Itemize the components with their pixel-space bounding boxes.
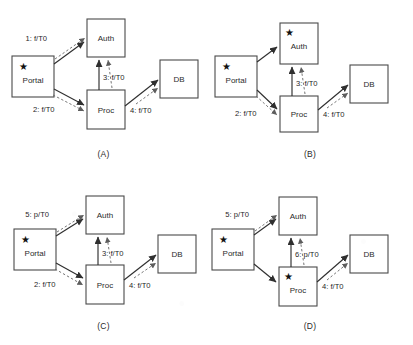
node-portal-label: Portal [25,249,46,258]
edge-portal-proc [254,264,276,282]
panel-d-caption: (D) [207,321,413,331]
edge-proc-portal-return [55,269,83,285]
edge-label-2: 2: f/T0 [235,109,257,118]
edge-label-5: 5: p/T0 [225,210,249,219]
edge-label-2: 2: f/T0 [33,105,55,114]
edge-label-2: 2: f/T0 [34,280,56,289]
edge-db-proc-return [136,88,158,104]
panel-c: ★ Portal Auth Proc DB 5: p/T0 2: f/T0 3:… [0,172,207,345]
edge-label-3: 3: f/T0 [102,249,124,258]
edge-db-proc-return [327,263,348,280]
edge-db-proc-return [134,263,156,278]
node-db-label: DB [363,80,374,89]
node-proc-label: Proc [290,286,306,295]
node-db-label: DB [171,250,182,259]
node-portal-label: Portal [226,76,247,85]
node-auth-label: Auth [97,211,113,220]
edge-auth-portal-return [55,38,85,59]
panel-c-caption: (C) [0,321,207,331]
node-portal-label: Portal [23,76,44,85]
panel-a: ★ Portal Auth Proc DB 1: f/T0 2: f/T0 [0,0,207,172]
edge-label-4: 4: f/T0 [130,106,152,115]
edge-label-4: 4: f/T0 [322,282,344,291]
node-auth-label: Auth [98,34,114,43]
star-icon-portal: ★ [222,61,231,72]
edge-portal-auth [54,42,84,64]
edge-label-6: 6: p/T0 [295,250,319,259]
star-icon-portal: ★ [19,61,28,72]
edge-proc-db [317,255,348,282]
star-icon-portal: ★ [21,234,30,245]
panel-a-diagram: ★ Portal Auth Proc DB 1: f/T0 2: f/T0 [0,0,207,172]
edge-label-3: 3: f/T0 [103,73,125,82]
edge-proc-db [318,85,348,110]
node-portal-label: Portal [223,249,244,258]
edge-label-1: 1: f/T0 [25,34,47,43]
node-proc-label: Proc [98,106,114,115]
edge-label-4: 4: f/T0 [129,281,151,290]
node-proc-label: Proc [97,281,113,290]
edge-portal-auth [56,219,83,236]
node-db-label: DB [173,75,184,84]
node-db-label: DB [363,250,374,259]
panel-b: ★ Portal ★ Auth Proc DB 2: f/T0 3: f/T0 … [207,0,413,172]
panel-b-caption: (B) [207,149,413,159]
panel-d: ★ Portal Auth ★ Proc DB 5: p/T0 6: p/T0 … [207,172,413,345]
edge-label-4: 4: f/T0 [323,110,345,119]
panel-a-caption: (A) [0,149,207,159]
edge-portal-auth [254,219,276,235]
edge-auth-portal-return [57,215,84,232]
panel-b-diagram: ★ Portal ★ Auth Proc DB 2: f/T0 3: f/T0 … [207,0,413,172]
star-icon-portal: ★ [219,234,228,245]
edge-portal-proc [54,89,84,105]
node-auth-label: Auth [290,212,306,221]
edge-portal-proc [56,263,83,278]
edge-proc-db [125,80,158,106]
panel-c-diagram: ★ Portal Auth Proc DB 5: p/T0 2: f/T0 3:… [0,172,207,345]
star-icon-proc: ★ [284,271,293,282]
figure-panel-grid: ★ Portal Auth Proc DB 1: f/T0 2: f/T0 [0,0,413,345]
edge-portal-auth [257,47,277,62]
edge-proc-db [124,255,156,280]
star-icon-auth: ★ [285,27,294,38]
edge-label-3: 3: f/T0 [296,79,318,88]
edge-auth-portal-return [255,215,277,231]
panel-d-diagram: ★ Portal Auth ★ Proc DB 5: p/T0 6: p/T0 … [207,172,413,345]
edge-label-5: 5: p/T0 [25,210,49,219]
node-proc-label: Proc [291,110,307,119]
node-auth-label: Auth [291,42,307,51]
